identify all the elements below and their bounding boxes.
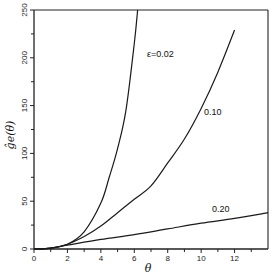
y-tick-label: 150 [20,98,29,112]
x-tick-label: 0 [32,254,37,263]
x-axis-label: θ [145,262,152,275]
plot-frame [30,10,268,253]
curve-label: ε=0.02 [147,49,174,59]
curve-line [34,30,235,249]
y-tick-label: 200 [20,51,29,65]
curve-label: 0.20 [212,204,230,214]
curve-line [34,10,138,249]
chart: 024681012050100150200250θĝe(θ)ε=0.020.10… [0,0,276,277]
y-tick-label: 100 [20,146,29,160]
x-tick-label: 8 [165,254,170,263]
y-tick-label: 50 [20,196,29,205]
y-tick-label: 250 [20,3,29,17]
x-tick-label: 4 [99,254,104,263]
curve-label: 0.10 [204,107,222,117]
x-tick-label: 12 [230,254,239,263]
y-axis-label: ĝe(θ) [4,121,17,150]
x-tick-label: 6 [132,254,137,263]
x-tick-label: 2 [65,254,70,263]
labels: 024681012050100150200250θĝe(θ)ε=0.020.10… [4,3,240,275]
curves [34,10,268,249]
x-tick-label: 10 [197,254,206,263]
y-tick-label: 0 [20,246,29,251]
